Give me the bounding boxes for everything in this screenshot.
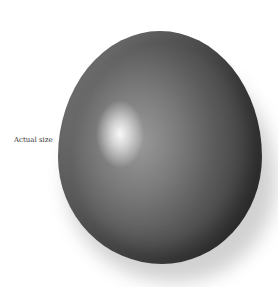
egg-image xyxy=(58,31,262,264)
caption-label: Actual size xyxy=(14,136,53,144)
